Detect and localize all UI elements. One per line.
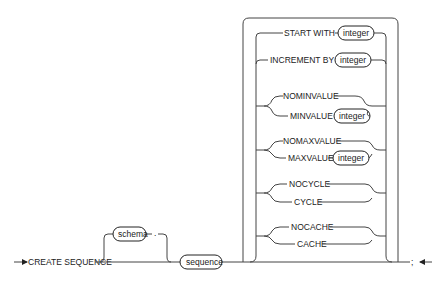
minvalue-integer: integer: [339, 111, 365, 121]
option-increment-by: INCREMENT BY integer: [256, 53, 386, 67]
nocycle-keyword: NOCYCLE: [289, 179, 330, 189]
sequence-placeholder: sequence: [186, 257, 223, 267]
start-with-keyword: START WITH: [284, 28, 335, 38]
option-rail-left: [250, 33, 266, 262]
increment-by-keyword: INCREMENT BY: [270, 55, 334, 65]
option-cycle-group: NOCYCLE CYCLE: [256, 179, 386, 207]
option-cache-group: NOCACHE CACHE: [256, 222, 386, 249]
increment-by-integer: integer: [340, 55, 366, 65]
terminator-semicolon: ;: [411, 257, 413, 267]
minvalue-keyword: MINVALUE: [290, 111, 333, 121]
schema-separator: .: [154, 228, 156, 238]
nocache-keyword: NOCACHE: [291, 222, 334, 232]
option-minvalue-group: NOMINVALUE MINVALUE integer: [256, 91, 386, 123]
option-maxvalue-group: NOMAXVALUE MAXVALUE integer: [256, 136, 386, 165]
maxvalue-integer: integer: [338, 153, 364, 163]
option-rail-right: [376, 33, 392, 262]
schema-placeholder: schema: [118, 229, 148, 239]
syntax-diagram: CREATE SEQUENCE . schema sequence START …: [0, 0, 440, 284]
nomaxvalue-keyword: NOMAXVALUE: [283, 136, 342, 146]
option-start-with: START WITH integer: [266, 26, 376, 40]
start-with-integer: integer: [343, 28, 369, 38]
maxvalue-keyword: MAXVALUE: [288, 153, 334, 163]
nominvalue-keyword: NOMINVALUE: [283, 91, 339, 101]
